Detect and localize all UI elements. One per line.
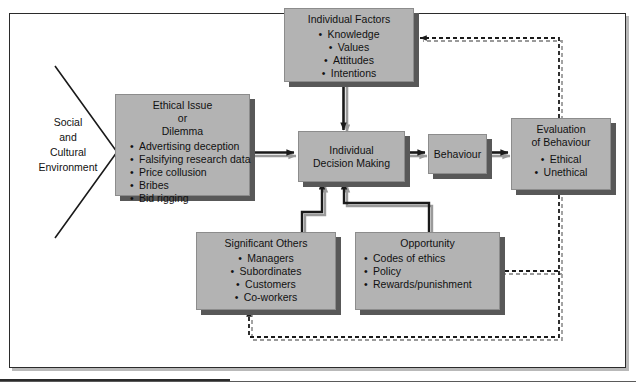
- list-item: Managers: [238, 252, 294, 265]
- list-item: Attitudes: [324, 54, 374, 67]
- box-evaluation-of-behaviour-list: Ethical Unethical: [512, 153, 610, 179]
- diagram-page: Social and Cultural Environment Individu…: [0, 0, 636, 391]
- list-item: Unethical: [535, 166, 588, 179]
- list-item: Intentions: [322, 67, 377, 80]
- box-behaviour-title: Behaviour: [434, 148, 481, 161]
- box-individual-decision-making-title: Individual Decision Making: [313, 144, 390, 170]
- list-item: Price collusion: [130, 166, 249, 179]
- box-ethical-issue-title: Ethical Issue or Dilemma: [116, 95, 249, 138]
- box-ethical-issue[interactable]: Ethical Issue or Dilemma Advertising dec…: [115, 94, 250, 196]
- list-item: Values: [329, 41, 369, 54]
- list-item: Subordinates: [231, 265, 302, 278]
- list-item: Bid rigging: [130, 192, 249, 205]
- list-item: Codes of ethics: [364, 252, 499, 265]
- list-item: Ethical: [541, 153, 582, 166]
- list-item: Falsifying research data: [130, 153, 249, 166]
- caption-divider: [0, 381, 636, 382]
- box-opportunity[interactable]: Opportunity Codes of ethics Policy Rewar…: [355, 232, 500, 310]
- box-individual-factors-title: Individual Factors: [285, 9, 413, 26]
- box-individual-factors-list: Knowledge Values Attitudes Intentions: [285, 28, 413, 80]
- box-opportunity-list: Codes of ethics Policy Rewards/punishmen…: [356, 252, 499, 291]
- box-behaviour[interactable]: Behaviour: [428, 134, 487, 174]
- box-opportunity-title: Opportunity: [356, 233, 499, 250]
- box-individual-decision-making[interactable]: Individual Decision Making: [298, 131, 405, 182]
- box-significant-others[interactable]: Significant Others Managers Subordinates…: [196, 232, 336, 310]
- box-ethical-issue-list: Advertising deception Falsifying researc…: [116, 140, 249, 205]
- list-item: Knowledge: [319, 28, 380, 41]
- box-evaluation-of-behaviour[interactable]: Evaluation of Behaviour Ethical Unethica…: [511, 118, 611, 190]
- list-item: Policy: [364, 265, 499, 278]
- list-item: Advertising deception: [130, 140, 249, 153]
- social-cultural-environment-label: Social and Cultural Environment: [22, 115, 114, 175]
- caption-divider-accent: [0, 379, 230, 381]
- list-item: Co-workers: [235, 291, 298, 304]
- box-evaluation-of-behaviour-title: Evaluation of Behaviour: [512, 119, 610, 149]
- list-item: Customers: [236, 278, 296, 291]
- list-item: Rewards/punishment: [364, 278, 499, 291]
- box-significant-others-list: Managers Subordinates Customers Co-worke…: [197, 252, 335, 304]
- box-significant-others-title: Significant Others: [197, 233, 335, 250]
- box-individual-factors[interactable]: Individual Factors Knowledge Values Atti…: [284, 8, 414, 82]
- list-item: Bribes: [130, 179, 249, 192]
